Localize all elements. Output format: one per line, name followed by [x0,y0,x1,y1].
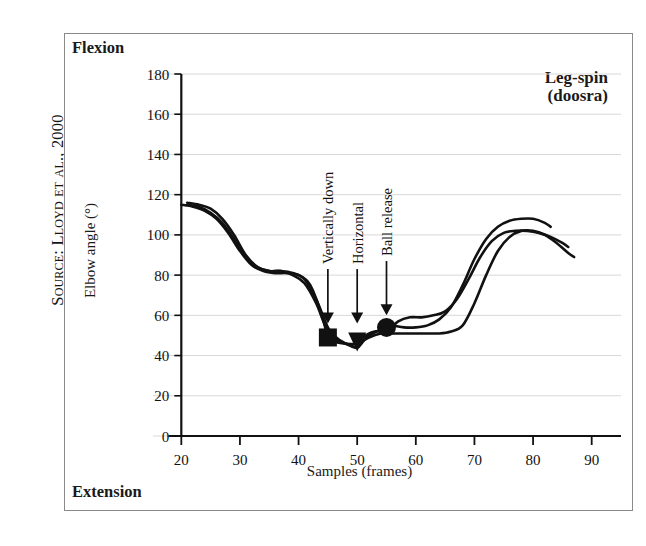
y-axis-tick-label: 40 [154,348,169,364]
marker-square-vertically-down [319,328,337,346]
figure-frame: Flexion Extension Leg-spin (doosra) Elbo… [64,33,633,511]
annotation-arrow-head [381,304,393,315]
data-series-line [181,205,574,344]
x-axis-tick-label: 70 [467,452,482,468]
annotation-arrow-head [351,312,363,323]
x-axis-tick-label: 50 [350,452,365,468]
y-axis-tick-label: 180 [147,67,170,83]
annotation-group: Horizontal [350,202,366,323]
annotation-label: Horizontal [350,202,366,264]
elbow-angle-plot: 0204060801001201401601802030405060708090… [65,34,634,512]
annotation-label: Vertically down [320,171,336,264]
y-axis-tick-label: 80 [154,268,169,284]
figure-page: Source: Lloyd et al., 2000 Flexion Exten… [0,0,646,546]
y-axis-tick-label: 60 [154,308,169,324]
x-axis-tick-label: 20 [174,452,189,468]
x-axis-tick-label: 40 [291,452,306,468]
y-axis-tick-label: 20 [154,388,169,404]
y-axis-tick-label: 0 [162,429,170,445]
annotation-group: Vertically down [320,171,336,323]
x-axis-tick-label: 90 [584,452,599,468]
marker-circle-ball-release [377,318,396,337]
y-axis-tick-label: 120 [147,187,170,203]
y-axis-tick-label: 160 [147,107,170,123]
y-axis-tick-label: 100 [147,227,170,243]
annotation-group: Ball release [379,188,395,315]
x-axis-tick-label: 60 [408,452,423,468]
x-axis-tick-label: 80 [526,452,541,468]
annotation-label: Ball release [379,188,395,256]
x-axis-tick-label: 30 [232,452,247,468]
y-axis-tick-label: 140 [147,147,170,163]
